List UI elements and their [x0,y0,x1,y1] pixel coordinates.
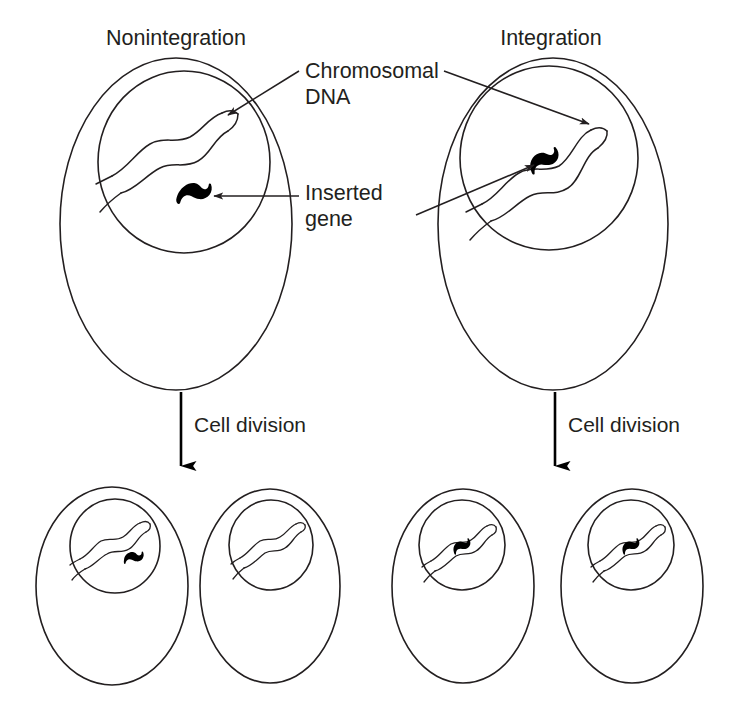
daughter-membrane [561,489,703,683]
chromosomal-dna-label-line2: DNA [305,85,351,109]
cell-division-arrow-left: Cell division [181,392,306,466]
inserted-gene-integrated-parent [525,145,562,175]
gene-integration-diagram: Nonintegration Cell di [0,0,738,701]
cell-division-label-right: Cell division [568,413,680,436]
inserted-gene-integrated-daughter [450,537,472,555]
daughter-nucleus [229,500,313,590]
chromosomal-dna-nonintegration [96,111,238,212]
parent-cell-membrane-nonintegration [60,58,292,390]
panel-title-nonintegration: Nonintegration [106,26,246,50]
daughter-membrane [392,489,534,683]
cell-division-arrow-right: Cell division [555,392,680,466]
chromosomal-dna-label-line1: Chromosomal [305,59,439,83]
daughter-membrane [36,487,188,685]
panel-nonintegration: Nonintegration Cell di [36,26,340,685]
inserted-gene-free-daughter [123,550,145,564]
inserted-gene-integrated-daughter [619,537,641,555]
daughter-dna [591,525,665,582]
figure-canvas: Nonintegration Cell di [0,0,738,701]
inserted-gene-label-line2: gene [305,207,353,231]
cell-division-label-left: Cell division [194,413,306,436]
daughter-membrane [200,489,340,683]
inserted-gene-free-nonintegration [175,181,214,204]
parent-nucleus-nonintegration [98,71,270,253]
daughter-cell-nonintegration-left [36,487,188,685]
daughter-dna [231,523,305,579]
inserted-gene-label-line1: Inserted [305,181,383,205]
panel-title-integration: Integration [500,26,602,50]
daughter-cell-nonintegration-right [200,489,340,683]
chromosomal-dna-integration [466,128,607,240]
daughter-nucleus [70,499,160,593]
panel-integration: Integration Cell division [392,26,703,683]
daughter-cell-integration-left [392,489,534,683]
chromosomal-dna-annotation: Chromosomal DNA [228,59,589,124]
chromosomal-dna-leader-left [228,71,299,115]
parent-cell-membrane-integration [438,58,668,390]
daughter-dna [70,522,150,580]
daughter-dna [422,525,496,582]
daughter-cell-integration-right [561,489,703,683]
inserted-gene-annotation: Inserted gene [214,165,534,231]
